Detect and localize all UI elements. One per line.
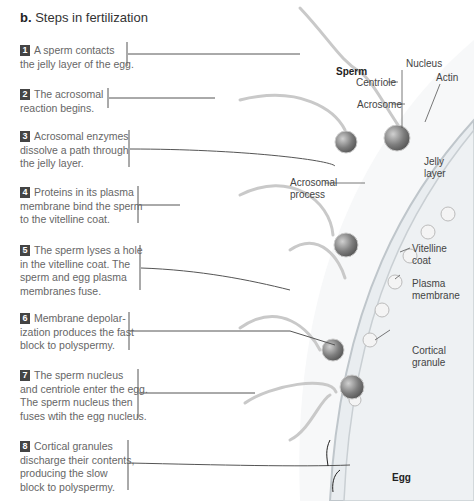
step-2: 2The acrosomal reaction begins. xyxy=(20,88,103,115)
label-egg: Egg xyxy=(392,472,411,484)
step-8: 8Cortical granules discharge their conte… xyxy=(20,440,134,494)
label-acrosome: Acrosome xyxy=(357,99,402,111)
step-6: 6Membrane depolar- ization produces the … xyxy=(20,312,134,353)
label-vitelline-coat: Vitellinecoat xyxy=(412,243,447,267)
label-cortical-granule: Corticalgranule xyxy=(412,345,446,369)
step-7: 7The sperm nucleus and centriole enter t… xyxy=(20,369,148,423)
step-number-badge: 6 xyxy=(20,313,30,324)
step-number-badge: 4 xyxy=(20,187,30,198)
step-number-badge: 3 xyxy=(20,131,30,142)
step-4: 4Proteins in its plasma membrane bind th… xyxy=(20,186,143,227)
step-number-badge: 5 xyxy=(20,245,30,256)
step-number-badge: 7 xyxy=(20,370,30,381)
label-jelly-layer: Jellylayer xyxy=(424,156,446,180)
label-actin: Actin xyxy=(436,72,458,84)
step-number-badge: 2 xyxy=(20,89,30,100)
step-number-badge: 1 xyxy=(20,45,30,56)
label-nucleus: Nucleus xyxy=(406,58,442,70)
label-plasma-membrane: Plasmamembrane xyxy=(412,278,460,302)
step-number-badge: 8 xyxy=(20,441,30,452)
step-5: 5The sperm lyses a hole in the vitelline… xyxy=(20,244,143,298)
step-1: 1A sperm contacts the jelly layer of the… xyxy=(20,44,134,71)
step-3: 3Acrosomal enzymes dissolve a path throu… xyxy=(20,130,129,171)
label-acrosomal-process: Acrosomalprocess xyxy=(290,177,337,201)
label-centriole: Centriole xyxy=(356,77,396,89)
